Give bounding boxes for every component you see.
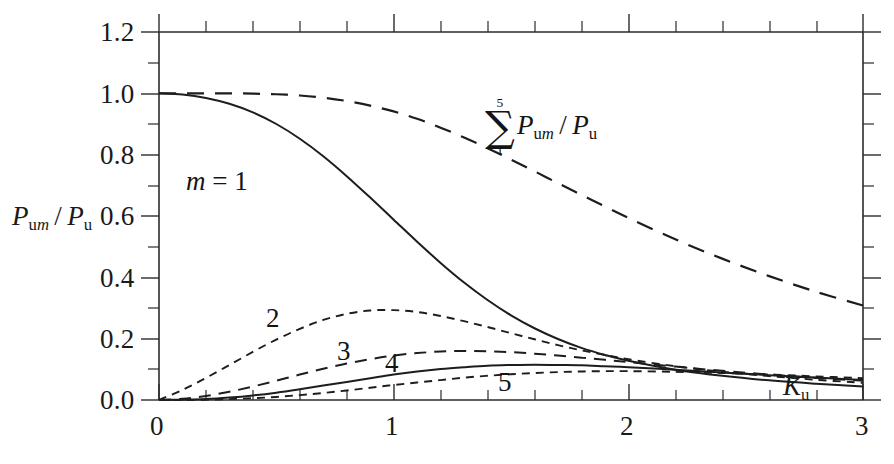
sum-lower-limit: 1 xyxy=(497,144,504,157)
curve-label-2: 2 xyxy=(266,303,280,334)
x-tick-label-0: 0 xyxy=(150,411,164,442)
y-tick-label-0-0: 0.0 xyxy=(100,385,135,416)
curve-label-3: 3 xyxy=(337,336,351,367)
sigma-glyph: ∑ xyxy=(485,110,515,144)
curve-label-4: 4 xyxy=(385,348,399,379)
sum-body: Pum / Pu xyxy=(517,110,597,144)
y-tick-label-1-2: 1.2 xyxy=(100,17,135,48)
y-axis-ticks-right xyxy=(863,32,881,400)
y-tick-label-0-4: 0.4 xyxy=(100,263,135,294)
y-tick-label-1-0: 1.0 xyxy=(100,79,135,110)
x-axis-ticks-top xyxy=(159,14,863,32)
curve-label-5: 5 xyxy=(498,367,512,398)
y-axis-ticks-left xyxy=(141,32,159,400)
y-axis-title: Pum / Pu xyxy=(12,201,92,235)
y-tick-label-0-2: 0.2 xyxy=(100,324,135,355)
x-tick-label-3: 3 xyxy=(855,411,869,442)
figure-container: 1.2 1.0 0.8 0.6 0.4 0.2 0.0 Pum / Pu 0 1… xyxy=(0,0,894,464)
y-tick-label-0-8: 0.8 xyxy=(100,140,135,171)
sigma-icon: 5 ∑ 1 xyxy=(485,97,515,157)
annotation-sum-formula: 5 ∑ 1 Pum / Pu xyxy=(485,97,597,157)
x-tick-label-1: 1 xyxy=(385,411,399,442)
y-tick-label-0-6: 0.6 xyxy=(100,201,135,232)
x-tick-label-2: 2 xyxy=(620,411,634,442)
curve-label-m-equals-1: m = 1 xyxy=(186,166,248,197)
x-axis-title: Ku xyxy=(783,371,809,405)
